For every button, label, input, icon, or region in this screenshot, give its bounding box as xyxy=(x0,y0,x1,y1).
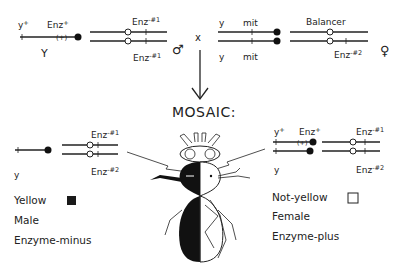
right-y-plus-label: y+ xyxy=(274,126,285,137)
left-enz-1-label: Enz-#1 xyxy=(91,129,119,140)
left-y-label: y xyxy=(14,170,20,180)
mosaic-fly-illustration xyxy=(150,133,250,262)
right-y-label: y xyxy=(274,165,280,175)
cross-symbol: x xyxy=(195,32,201,43)
right-legend: Not-yellow Female Enzyme-plus xyxy=(272,191,358,242)
left-enz-2-label: Enz-#2 xyxy=(91,166,119,177)
enz-minus-1-bottom-label: Enz-#1 xyxy=(133,52,161,63)
enz-plus-label: Enz+ xyxy=(47,19,69,30)
y-chromosome-label: Y xyxy=(40,47,48,60)
male-genotype: y+ Enz+ (+) Y Enz-#1 Enz-#1 ♂ xyxy=(18,16,184,63)
centromere-icon xyxy=(75,34,82,41)
right-transgene-marker: (+) xyxy=(297,139,308,147)
down-arrow-icon xyxy=(192,50,208,99)
male-symbol-icon: ♂ xyxy=(172,42,184,57)
female-symbol-icon: ♀ xyxy=(380,43,390,58)
right-enz-1-label: Enz-#1 xyxy=(356,126,384,137)
left-clone-genotype: Enz-#1 y Enz-#2 xyxy=(14,129,119,180)
right-enz-plus-label: Enz+ xyxy=(299,126,321,137)
left-pointer-line xyxy=(127,152,188,172)
enz-minus-2-label: Enz-#2 xyxy=(334,49,362,60)
mosaic-diagram: y+ Enz+ (+) Y Enz-#1 Enz-#1 ♂ x y mit y … xyxy=(0,0,405,272)
balancer-label: Balancer xyxy=(306,17,346,27)
legend-not-yellow: Not-yellow xyxy=(272,191,328,203)
enz-minus-1-top-label: Enz-#1 xyxy=(132,16,160,27)
female-y-bottom-label: y xyxy=(219,52,225,62)
legend-enzyme-plus: Enzyme-plus xyxy=(272,230,339,242)
left-legend: Yellow Male Enzyme-minus xyxy=(13,194,91,246)
yellow-swatch xyxy=(67,196,76,205)
right-clone-genotype: (+) y+ Enz+ Enz-#1 y Enz-#2 xyxy=(273,126,384,175)
right-enz-2-label: Enz-#2 xyxy=(356,164,384,175)
y-plus-label: y+ xyxy=(18,19,29,30)
female-mit-bottom-label: mit xyxy=(243,52,258,62)
legend-male: Male xyxy=(14,214,39,226)
legend-yellow: Yellow xyxy=(13,194,47,206)
transgene-marker: (+) xyxy=(56,34,68,42)
not-yellow-swatch xyxy=(348,193,358,203)
legend-enzyme-minus: Enzyme-minus xyxy=(14,234,91,246)
female-genotype: y mit y mit Balancer Enz-#2 ♀ xyxy=(218,17,390,62)
right-pointer-line xyxy=(213,149,265,170)
legend-female: Female xyxy=(272,210,310,222)
female-y-top-label: y xyxy=(219,18,225,28)
female-mit-top-label: mit xyxy=(243,18,258,28)
mosaic-title: MOSAIC: xyxy=(172,104,236,120)
